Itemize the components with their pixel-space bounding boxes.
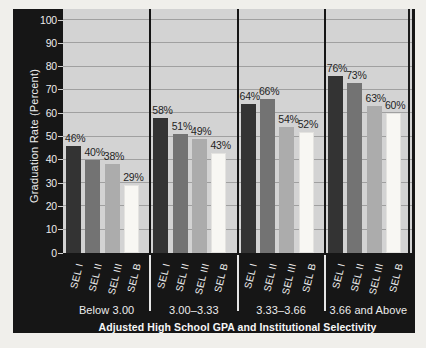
bar-value-label: 63% bbox=[366, 92, 386, 104]
sel-axis-label: SEL III bbox=[193, 262, 211, 295]
group-divider bbox=[237, 255, 239, 311]
gpa-group-label: 3.66 and Above bbox=[325, 304, 412, 318]
bar-value-label: 49% bbox=[191, 125, 211, 137]
sel-axis-label: SEL I bbox=[330, 262, 347, 289]
sel-axis-label: SEL III bbox=[105, 262, 123, 295]
plot-right-frame bbox=[408, 9, 410, 253]
y-tick-label-90: 90 bbox=[19, 37, 57, 49]
bar-sel-ii bbox=[260, 99, 275, 253]
sel-axis-label: SEL B bbox=[387, 262, 405, 293]
bar-sel-i bbox=[66, 146, 81, 253]
y-tick-label-40: 40 bbox=[19, 153, 57, 165]
plot-area: 46%40%38%29%58%51%49%43%64%66%54%52%76%7… bbox=[63, 9, 412, 253]
sel-axis-label: SEL II bbox=[348, 262, 366, 292]
x-axis-title: Adjusted High School GPA and Institution… bbox=[63, 321, 412, 333]
bar-value-label: 60% bbox=[385, 99, 405, 111]
bar-value-label: 51% bbox=[172, 120, 192, 132]
gpa-group-label: 3.00–3.33 bbox=[150, 304, 237, 318]
bar-value-label: 76% bbox=[327, 62, 347, 74]
group-divider bbox=[149, 255, 151, 311]
group-separator bbox=[149, 9, 151, 253]
bar-sel-i bbox=[241, 104, 256, 253]
y-tick-label-0: 0 bbox=[19, 247, 57, 259]
bar-value-label: 66% bbox=[259, 85, 279, 97]
sel-axis-label: SEL II bbox=[261, 262, 279, 292]
y-tick-label-100: 100 bbox=[19, 14, 57, 26]
bar-sel-b bbox=[299, 132, 314, 253]
group-separator bbox=[324, 9, 326, 253]
bar-sel-i bbox=[153, 118, 168, 253]
bar-sel-iii bbox=[192, 139, 207, 253]
bar-value-label: 29% bbox=[123, 171, 143, 183]
bar-sel-iii bbox=[279, 127, 294, 253]
group-divider bbox=[324, 255, 326, 311]
sel-axis-label: SEL B bbox=[300, 262, 318, 293]
bar-value-label: 58% bbox=[152, 104, 172, 116]
bar-sel-ii bbox=[347, 83, 362, 253]
y-tick-label-60: 60 bbox=[19, 107, 57, 119]
y-tick-label-50: 50 bbox=[19, 130, 57, 142]
bar-sel-iii bbox=[367, 106, 382, 253]
sel-axis-label: SEL I bbox=[242, 262, 259, 289]
bar-value-label: 46% bbox=[65, 132, 85, 144]
bar-value-label: 52% bbox=[298, 118, 318, 130]
group-separator bbox=[237, 9, 239, 253]
sel-axis-label: SEL III bbox=[367, 262, 385, 295]
y-tick-label-80: 80 bbox=[19, 60, 57, 72]
bar-value-label: 73% bbox=[346, 69, 366, 81]
bar-sel-b bbox=[211, 153, 226, 253]
figure-frame: Graduation Rate (Percent) 01020304050607… bbox=[13, 9, 415, 333]
y-tick-label-30: 30 bbox=[19, 177, 57, 189]
bar-sel-b bbox=[124, 185, 139, 253]
bar-sel-b bbox=[386, 113, 401, 253]
sel-axis-label: SEL I bbox=[68, 262, 85, 289]
sel-axis-label: SEL III bbox=[280, 262, 298, 295]
sel-axis-label: SEL II bbox=[174, 262, 192, 292]
bar-value-label: 64% bbox=[240, 90, 260, 102]
bar-value-label: 40% bbox=[84, 146, 104, 158]
sel-axis-label: SEL II bbox=[87, 262, 105, 292]
y-tick-label-10: 10 bbox=[19, 223, 57, 235]
gpa-group-label: Below 3.00 bbox=[63, 304, 150, 318]
y-tick-label-20: 20 bbox=[19, 200, 57, 212]
gpa-group-label: 3.33–3.66 bbox=[238, 304, 325, 318]
sel-axis-label: SEL B bbox=[212, 262, 230, 293]
sel-axis-label: SEL B bbox=[125, 262, 143, 293]
bar-sel-ii bbox=[85, 160, 100, 253]
bar-value-label: 54% bbox=[278, 113, 298, 125]
y-tick-label-70: 70 bbox=[19, 83, 57, 95]
bar-sel-i bbox=[328, 76, 343, 253]
bar-value-label: 43% bbox=[210, 139, 230, 151]
sel-axis-label: SEL I bbox=[155, 262, 172, 289]
bar-value-label: 38% bbox=[104, 150, 124, 162]
bar-sel-iii bbox=[105, 164, 120, 253]
bar-sel-ii bbox=[173, 134, 188, 253]
